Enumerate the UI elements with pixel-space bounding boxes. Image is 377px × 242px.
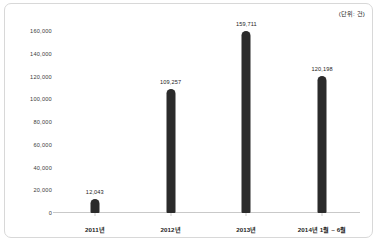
x-axis-category-label: 2014년 1월 ~ 6월 bbox=[298, 225, 347, 234]
bar-value-label: 12,043 bbox=[86, 189, 104, 195]
y-axis-tick-label: 40,000 bbox=[33, 165, 52, 171]
y-axis-tick-label: 80,000 bbox=[33, 119, 52, 125]
bar[interactable] bbox=[166, 89, 175, 213]
x-axis-tickmark bbox=[94, 213, 95, 216]
y-axis-tick-label: 160,000 bbox=[30, 28, 52, 34]
bar-series: 12,0432011년109,2572012년159,7112013년120,1… bbox=[57, 31, 360, 213]
y-axis-tick-label: 60,000 bbox=[33, 142, 52, 148]
bar[interactable] bbox=[318, 76, 327, 213]
y-axis-tick-label: 120,000 bbox=[30, 74, 52, 80]
x-axis-tickmark bbox=[322, 213, 323, 216]
x-axis-category-label: 2013년 bbox=[236, 225, 256, 234]
x-axis-tickmark bbox=[170, 213, 171, 216]
bar[interactable] bbox=[90, 199, 99, 213]
x-axis-tickmark bbox=[246, 213, 247, 216]
x-axis-category-label: 2011년 bbox=[85, 225, 105, 234]
bar-value-label: 109,257 bbox=[160, 79, 181, 85]
bar[interactable] bbox=[242, 31, 251, 213]
y-axis-tick-label: 20,000 bbox=[33, 187, 52, 193]
y-axis-tick-label: 100,000 bbox=[30, 96, 52, 102]
plot-area: 020,00040,00060,00080,000100,000120,0001… bbox=[57, 31, 360, 213]
chart-figure: (단위: 건) 020,00040,00060,00080,000100,000… bbox=[0, 0, 377, 242]
y-axis-tick-label: 140,000 bbox=[30, 51, 52, 57]
bar-value-label: 159,711 bbox=[236, 21, 257, 27]
y-axis-tick-label: 0 bbox=[49, 210, 52, 216]
x-axis-category-label: 2012년 bbox=[160, 225, 180, 234]
bar-value-label: 120,198 bbox=[311, 66, 332, 72]
unit-annotation: (단위: 건) bbox=[339, 9, 365, 18]
